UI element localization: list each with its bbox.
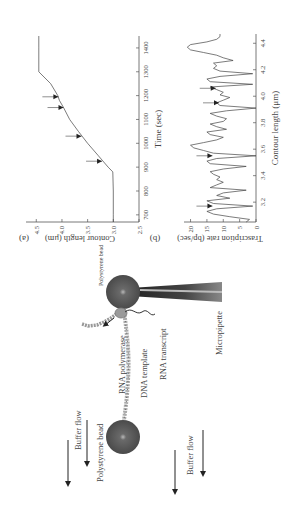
x-tick-label: 3.8 (259, 119, 266, 127)
x-axis-title: Contour length (μm) (270, 91, 280, 165)
y-tick-label: 15 (203, 226, 210, 233)
y-tick-label: 3.5 (84, 226, 91, 234)
y-tick-label: 5 (236, 226, 243, 229)
y-axis-title: Trascription rate (bp/sec) (177, 234, 263, 244)
arrow-head-icon (207, 204, 212, 209)
x-tick-label: 1300 (142, 65, 149, 78)
panel-a: 700800900100011001200130014002.53.03.54.… (19, 36, 163, 244)
data-line (187, 34, 256, 222)
y-tick-label: 4.5 (33, 226, 40, 234)
y-tick-label: 3.0 (110, 226, 117, 234)
buffer-flow-right-label: Buffer flow (185, 434, 195, 475)
optical-trap-diagram: Polystyrene bead Polystyrene bead RNA po… (68, 245, 224, 492)
x-tick-label: 1200 (142, 89, 149, 102)
x-tick-label: 3.6 (259, 144, 266, 153)
x-tick-label: 900 (142, 162, 149, 172)
arrow-head-icon (207, 153, 212, 158)
figure-canvas: 700800900100011001200130014002.53.03.54.… (0, 0, 286, 529)
x-tick-label: 3.4 (259, 171, 266, 180)
micropipette-label: Micropipette (214, 311, 224, 355)
panel-label: (b) (150, 234, 161, 244)
x-tick-label: 4.4 (259, 38, 266, 47)
rna-polymerase-label: RNA polymerase (117, 335, 127, 394)
y-tick-label: 2.5 (136, 226, 143, 234)
x-tick-label: 1400 (142, 41, 149, 54)
x-tick-label: 700 (142, 210, 149, 220)
bead-top (106, 275, 140, 309)
dna-template-label: DNA template (139, 348, 149, 398)
x-tick-label: 3.2 (259, 198, 266, 206)
x-tick-label: 1000 (142, 137, 149, 150)
x-tick-label: 4.0 (259, 92, 266, 100)
bead-bottom (106, 420, 140, 454)
rna-transcript (125, 310, 155, 315)
bead-top-label: Polystyrene bead (98, 245, 104, 286)
rna-transcript-label: RNA transcript (158, 328, 168, 380)
x-tick-label: 800 (142, 186, 149, 196)
y-tick-label: 20 (187, 226, 194, 233)
arrow-head-icon (214, 100, 219, 105)
y-tick-label: 10 (220, 226, 227, 233)
bead-bottom-label: Polystyrene bead (95, 423, 105, 482)
data-line (39, 36, 114, 222)
panel-label: (a) (19, 234, 29, 244)
y-tick-label: 0 (253, 226, 260, 229)
buffer-flow-left-label: Buffer flow (73, 409, 83, 450)
rna-polymerase (115, 308, 127, 318)
panel-b: 3.23.43.63.84.04.24.405101520Contour len… (150, 34, 280, 244)
y-axis-title: Contour length (μm) (45, 234, 115, 244)
x-axis-title: Time (sec) (153, 110, 163, 148)
y-tick-label: 4.0 (58, 226, 65, 234)
x-tick-label: 4.2 (259, 66, 266, 74)
x-tick-label: 1100 (142, 113, 149, 126)
